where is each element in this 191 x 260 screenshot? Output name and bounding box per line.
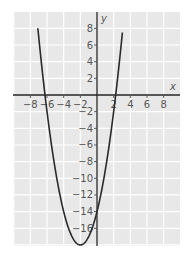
parabola-chart: −8−6−4−224688642−2−4−6−8−10−12−14−16 x y [0, 0, 191, 260]
x-tick-label: 8 [160, 99, 166, 110]
y-axis-label: y [100, 13, 108, 24]
y-tick-label: 4 [87, 56, 93, 67]
y-tick-label: −14 [72, 206, 93, 217]
x-tick-label: −4 [56, 99, 71, 110]
y-tick-label: 8 [87, 23, 93, 34]
x-tick-label: 4 [127, 99, 133, 110]
y-tick-label: −6 [78, 139, 93, 150]
x-tick-label: −8 [23, 99, 38, 110]
y-tick-label: −2 [78, 106, 93, 117]
y-tick-label: −4 [78, 123, 93, 134]
y-tick-label: 2 [87, 73, 93, 84]
x-axis-label: x [169, 81, 176, 92]
y-tick-label: −12 [72, 189, 93, 200]
y-tick-label: −8 [78, 156, 93, 167]
x-tick-label: 6 [144, 99, 150, 110]
y-tick-label: 6 [87, 40, 93, 51]
y-tick-label: −10 [72, 173, 93, 184]
